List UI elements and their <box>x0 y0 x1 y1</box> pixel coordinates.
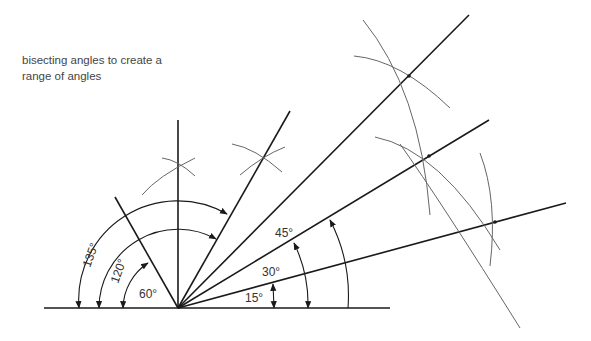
label-60: 60° <box>139 287 157 301</box>
ray-45 <box>178 15 469 308</box>
label-15: 15° <box>245 291 263 305</box>
arc-15 <box>273 284 274 308</box>
label-30: 30° <box>262 265 280 279</box>
construction-arcs <box>142 20 520 328</box>
label-45: 45° <box>275 226 293 240</box>
ray-30 <box>178 120 489 308</box>
arc-60 <box>123 263 148 308</box>
angle-arcs <box>79 201 349 308</box>
ray-15 <box>178 203 566 308</box>
label-135: 135° <box>80 241 102 269</box>
label-120: 120° <box>108 257 130 285</box>
rays <box>115 15 566 308</box>
angle-construction-diagram: 135° 120° 60° 45° 30° 15° <box>0 0 591 341</box>
